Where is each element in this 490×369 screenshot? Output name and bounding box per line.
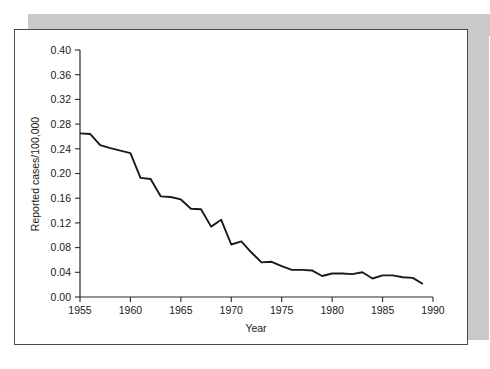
y-tick-label-0.08: 0.08 (51, 241, 72, 253)
y-tick-label-0.00: 0.00 (51, 291, 72, 303)
y-axis-group: 0.000.040.080.120.160.200.240.280.320.36… (51, 44, 80, 303)
y-tick-marks (75, 50, 80, 297)
data-series-line (80, 133, 423, 284)
y-tick-label-0.20: 0.20 (51, 167, 72, 179)
x-tick-label-1980: 1980 (320, 304, 344, 316)
y-tick-label-0.16: 0.16 (51, 192, 72, 204)
y-tick-label-0.32: 0.32 (51, 93, 72, 105)
x-tick-label-1960: 1960 (119, 304, 143, 316)
x-tick-label-1955: 1955 (68, 304, 92, 316)
y-tick-label-0.04: 0.04 (51, 266, 72, 278)
x-tick-label-1965: 1965 (169, 304, 193, 316)
x-tick-label-1975: 1975 (270, 304, 294, 316)
y-tick-label-0.40: 0.40 (51, 44, 72, 56)
x-tick-label-1970: 1970 (220, 304, 244, 316)
x-tick-labels: 19551960196519701975198019851990 (68, 304, 445, 316)
x-axis-group: 19551960196519701975198019851990 (68, 297, 445, 316)
x-tick-marks (80, 297, 433, 302)
y-tick-label-0.24: 0.24 (51, 143, 72, 155)
x-tick-label-1990: 1990 (421, 304, 445, 316)
y-tick-label-0.28: 0.28 (51, 118, 72, 130)
y-tick-labels: 0.000.040.080.120.160.200.240.280.320.36… (51, 44, 72, 303)
x-axis-title: Year (245, 322, 267, 334)
y-axis-title: Reported cases/100,000 (29, 117, 41, 232)
x-tick-label-1985: 1985 (371, 304, 395, 316)
y-tick-label-0.36: 0.36 (51, 69, 72, 81)
y-tick-label-0.12: 0.12 (51, 217, 72, 229)
